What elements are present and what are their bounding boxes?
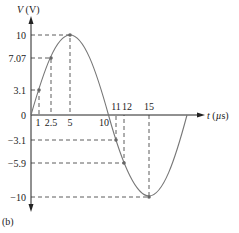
x-tick-10: 10 [99,117,109,128]
panel-label: (b) [2,216,14,228]
y-axis-arrow-down [29,204,34,212]
point-t5 [68,33,72,37]
y-tick-0: 0 [21,110,26,121]
sine-voltage-chart: V (V) 10 7.07 3.1 0 −3.1 −5.9 −10 1 2.5 … [0,0,239,233]
point-t15 [147,195,151,199]
x-tick-2.5: 2.5 [45,117,58,128]
y-tick-neg-10: −10 [10,192,26,203]
x-axis-label: t (µs) [207,110,229,122]
point-t12 [122,161,126,165]
y-tick-neg-5.9: −5.9 [8,158,26,169]
x-tick-12: 12 [122,101,132,112]
x-tick-15: 15 [144,101,154,112]
y-tick-10: 10 [16,30,26,41]
y-axis-arrow-up [29,16,34,24]
x-tick-1: 1 [36,117,41,128]
point-t11 [114,138,118,142]
y-tick-7.07: 7.07 [9,53,27,64]
x-axis-arrow [197,113,205,118]
y-tick-3.1: 3.1 [14,85,27,96]
x-tick-5: 5 [68,117,73,128]
point-t1 [37,88,41,92]
guide-peak [31,35,70,115]
y-tick-neg-3.1: −3.1 [8,135,26,146]
x-tick-11: 11 [111,101,121,112]
y-axis-label: V (V) [17,4,40,16]
point-t2p5 [49,56,53,60]
